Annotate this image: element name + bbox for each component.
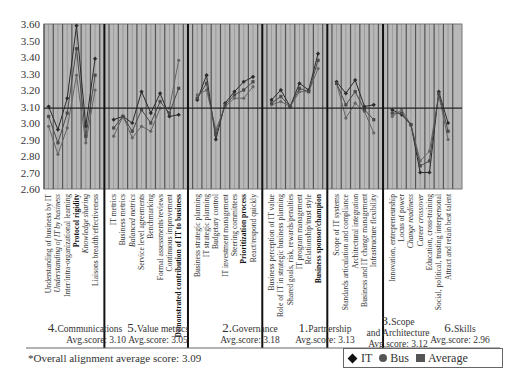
y-tick-label: 2.70 xyxy=(21,167,41,179)
x-category-label: Balanced metrics xyxy=(128,194,137,247)
diamond-marker-icon xyxy=(348,353,358,363)
section-title-skills: 6.Skills Avg.score: 2.96 xyxy=(420,322,500,346)
x-category-label: Liaisons breadth/effectiveness xyxy=(91,194,100,286)
x-category-label: Scope of IT systems xyxy=(332,194,341,256)
y-tick-label: 3.00 xyxy=(21,117,41,129)
square-marker-icon xyxy=(416,354,425,362)
section-title-communications: 4.Communications Avg.score: 3.10 xyxy=(44,322,126,346)
x-category-label: Business metrics xyxy=(118,194,127,245)
y-tick-label: 3.10 xyxy=(21,101,41,113)
x-category-label: Business perception of IT value xyxy=(267,193,276,290)
x-category-label: Career crossover xyxy=(416,194,425,246)
x-category-label: IT strategic planning xyxy=(202,194,211,257)
legend-item-it: IT xyxy=(349,351,372,366)
x-category-label: Business sponsor/champion xyxy=(314,193,323,283)
x-category-label: Attract and retain best talent xyxy=(444,193,453,280)
section-title-value-metrics: 5.Value metrics Avg.score: 3.05 xyxy=(118,322,198,346)
x-category-label: Continuous improvement xyxy=(165,193,174,271)
x-category-label: Demonstrated contribution of IT to busin… xyxy=(174,194,183,338)
x-category-label: Role of IT in strategic business plannin… xyxy=(276,194,285,317)
x-category-label: Benchmarking xyxy=(146,194,155,239)
x-category-label: React/respond quickly xyxy=(249,194,258,262)
x-category-label: IT investment management xyxy=(221,193,230,277)
plot-area xyxy=(44,24,462,189)
x-category-label: Shared goals, risk, rewards/penalties xyxy=(286,194,295,305)
section-title-partnership: 1.Partnership Avg.score: 3.13 xyxy=(290,322,360,346)
x-category-label: Knowledge sharing xyxy=(81,194,90,254)
x-category-label: Standards articulation and compliance xyxy=(341,193,350,310)
x-category-label: Budgetary control xyxy=(211,194,220,249)
x-category-label: Formal assessments/reviews xyxy=(156,194,165,280)
y-tick-label: 3.60 xyxy=(21,18,41,30)
y-axis: 3.603.503.403.303.203.103.002.902.802.70… xyxy=(21,18,41,195)
x-category-label: IT program management xyxy=(295,193,304,269)
section-avg-score: Avg.score: 2.96 xyxy=(420,335,500,346)
circle-marker-icon xyxy=(379,354,387,362)
x-category-label: Infrastructure flexibility xyxy=(369,194,378,267)
y-tick-label: 2.80 xyxy=(21,150,41,162)
x-category-label: Locus of power xyxy=(397,194,406,242)
x-category-label: Understanding of IT by business xyxy=(53,194,62,293)
x-category-label: IT metrics xyxy=(109,194,118,225)
x-category-label: Business strategic planning xyxy=(193,194,202,277)
chart-legend: IT Bus Average xyxy=(343,348,503,368)
x-category-label: Relationship/trust style xyxy=(304,193,313,264)
y-tick-label: 3.40 xyxy=(21,51,41,63)
x-category-label: Service level agreements xyxy=(137,194,146,270)
overall-average-footnote: *Overall alignment average score: 3.09 xyxy=(28,352,201,364)
x-category-label: Steering committees xyxy=(230,194,239,256)
legend-item-average: Average xyxy=(416,351,468,366)
x-category-label: Understanding of business by IT xyxy=(44,194,53,293)
x-category-label: Architectural integration xyxy=(351,194,360,269)
y-tick-label: 3.20 xyxy=(21,84,41,96)
section-avg-score: Avg.score: 3.10 xyxy=(44,335,126,346)
x-category-label: Social, political, trusting interpersona… xyxy=(434,194,443,310)
x-category-label: Education, cross-training xyxy=(425,194,434,271)
x-category-label: Protocol rigidity xyxy=(72,194,81,247)
legend-item-bus: Bus xyxy=(379,351,409,366)
x-category-label: Innovation, entrepreneurship xyxy=(388,194,397,282)
x-category-label: Business and IT change management xyxy=(360,193,369,307)
y-tick-label: 3.50 xyxy=(21,35,41,47)
y-tick-label: 2.90 xyxy=(21,134,41,146)
section-avg-score: Avg.score: 3.05 xyxy=(118,335,198,346)
x-category-label: Inter/intra-organizational learning xyxy=(63,194,72,297)
x-category-label: Prioritization process xyxy=(239,194,248,264)
section-avg-score: Avg.score: 3.18 xyxy=(210,335,290,346)
x-category-label: Change readiness xyxy=(406,194,415,248)
y-tick-label: 3.30 xyxy=(21,68,41,80)
y-tick-label: 2.60 xyxy=(21,183,41,195)
section-title-governance: 2.Governance Avg.score: 3.18 xyxy=(210,322,290,346)
section-avg-score: Avg.score: 3.13 xyxy=(290,335,360,346)
